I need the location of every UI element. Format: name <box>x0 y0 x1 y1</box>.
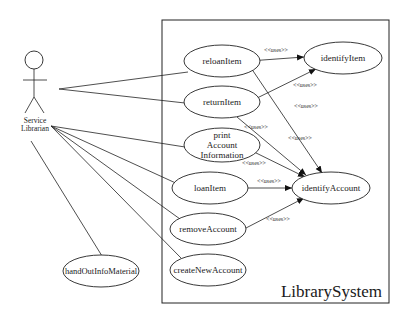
use-case-label: handOutInfoMaterial <box>65 266 138 276</box>
rel-label: <<uses>> <box>257 178 281 184</box>
use-case-label: reloanItem <box>203 56 242 66</box>
use-case-label: Information <box>201 150 244 160</box>
use-case-label: print <box>214 130 231 140</box>
use-case-loanItem[interactable]: loanItem <box>172 172 248 204</box>
actor-head-icon <box>25 51 43 69</box>
use-case-reloanItem[interactable]: reloanItem <box>184 45 260 77</box>
rel-reloan-identifyAccount <box>247 62 322 173</box>
use-case-createNewAccount[interactable]: createNewAccount <box>170 254 246 286</box>
assoc-returnItem <box>59 89 185 103</box>
rel-label: <<uses>> <box>244 124 268 130</box>
actor-associations <box>31 72 188 258</box>
use-case-label: identifyAccount <box>302 183 361 193</box>
use-case-identifyAccount[interactable]: identifyAccount <box>292 172 370 204</box>
use-case-handOutInfoMaterial[interactable]: handOutInfoMaterial <box>63 255 139 287</box>
rel-label: <<uses>> <box>294 103 318 109</box>
rel-label: <<uses>> <box>266 216 290 222</box>
rel-label: <<uses>> <box>264 47 288 53</box>
use-case-label: loanItem <box>194 183 226 193</box>
actor-leg-left <box>25 97 34 113</box>
use-case-label: removeAccount <box>179 224 237 234</box>
assoc-handOutInfoMaterial <box>31 141 102 256</box>
use-case-returnItem[interactable]: returnItem <box>184 86 260 118</box>
assoc-reloanItem <box>59 72 188 89</box>
use-case-label: createNewAccount <box>174 265 243 275</box>
use-case-label: returnItem <box>203 97 241 107</box>
rel-remove-identifyAccount <box>246 198 304 228</box>
actor-leg-right <box>34 97 44 113</box>
use-case-identifyItem[interactable]: identifyItem <box>304 42 382 74</box>
use-case-label: identifyItem <box>321 53 366 63</box>
use-case-removeAccount[interactable]: removeAccount <box>170 213 246 245</box>
use-case-diagram: LibrarySystem Service Librarian <<uses>>… <box>0 0 406 320</box>
use-case-label: Account <box>207 140 238 150</box>
actor-service-librarian: Service Librarian <box>21 51 49 133</box>
rel-label: <<uses>> <box>242 160 266 166</box>
rel-label: <<uses>> <box>293 82 317 88</box>
rel-label: <<uses>> <box>288 135 312 141</box>
use-case-print-account-information[interactable]: print Account Information <box>184 128 260 162</box>
assoc-loanItem <box>51 126 180 185</box>
assoc-printAccount <box>51 126 185 147</box>
actor-label-line2: Librarian <box>21 124 49 133</box>
system-label: LibrarySystem <box>281 282 382 301</box>
